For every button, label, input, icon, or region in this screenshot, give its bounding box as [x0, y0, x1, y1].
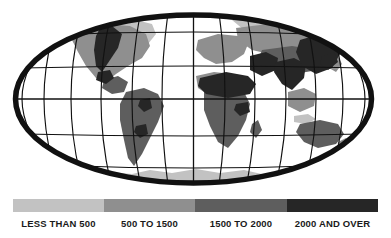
legend-band-1500-to-2000 [195, 199, 287, 212]
legend-color-bar [13, 199, 378, 212]
map-canvas: LESS THAN 500 500 TO 1500 1500 TO 2000 2… [0, 0, 391, 238]
legend-band-less-than-500 [13, 199, 104, 212]
legend-label-500-to-1500: 500 TO 1500 [121, 218, 178, 229]
legend-band-500-to-1500 [104, 199, 195, 212]
world-map-figure: LESS THAN 500 500 TO 1500 1500 TO 2000 2… [0, 0, 391, 238]
legend-label-2000-and-over: 2000 AND OVER [295, 218, 371, 229]
legend-label-1500-to-2000: 1500 TO 2000 [210, 218, 272, 229]
legend-label-less-than-500: LESS THAN 500 [21, 218, 95, 229]
legend-band-2000-and-over [287, 199, 378, 212]
